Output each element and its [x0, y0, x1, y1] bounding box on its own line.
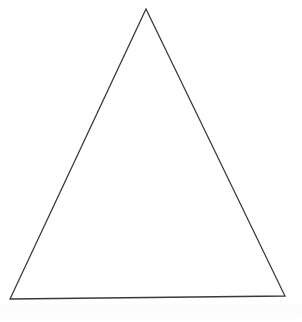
- figure-background: [0, 0, 302, 322]
- triangle-figure: [0, 0, 302, 322]
- drawing-canvas: [0, 0, 302, 322]
